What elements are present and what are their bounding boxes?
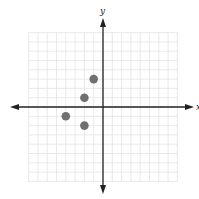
x-axis-label: x bbox=[196, 102, 199, 112]
y-axis-label: y bbox=[99, 6, 106, 16]
data-points bbox=[62, 75, 98, 130]
data-point bbox=[80, 121, 89, 130]
x-axis-right-arrow-icon bbox=[185, 104, 194, 110]
coordinate-plane: y x bbox=[0, 0, 199, 199]
data-point bbox=[80, 93, 89, 102]
data-point bbox=[89, 75, 98, 84]
y-axis-top-arrow-icon bbox=[100, 18, 106, 27]
x-axis-left-arrow-icon bbox=[10, 104, 19, 110]
data-point bbox=[62, 112, 71, 121]
y-axis bbox=[100, 18, 106, 194]
y-axis-bottom-arrow-icon bbox=[100, 185, 106, 194]
